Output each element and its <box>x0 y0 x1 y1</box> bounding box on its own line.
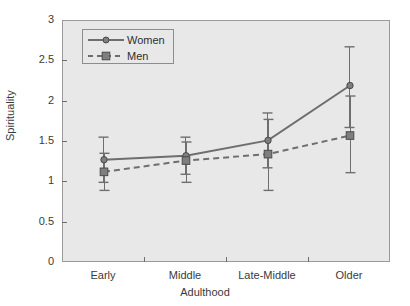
y-tick-mark <box>62 60 67 61</box>
square-marker <box>100 168 108 176</box>
y-tick-label: 0 <box>0 256 54 267</box>
chart-legend: WomenMen <box>82 29 174 64</box>
x-tick-mark <box>226 257 227 262</box>
square-marker <box>264 150 272 158</box>
y-axis-title: Spirituality <box>4 90 16 141</box>
y-tick-mark <box>62 222 67 223</box>
x-tick-mark <box>144 257 145 262</box>
series-men <box>100 132 354 176</box>
circle-marker <box>265 137 271 143</box>
legend-label: Women <box>127 33 165 47</box>
circle-marker <box>347 82 353 88</box>
chart-figure: 00.511.522.53 EarlyMiddleLate-MiddleOlde… <box>0 0 410 306</box>
x-tick-mark <box>308 257 309 262</box>
legend-item-women: Women <box>83 32 175 48</box>
x-tick-label: Older <box>299 270 399 281</box>
series-women <box>101 82 353 163</box>
y-tick-label: 2.5 <box>0 54 54 65</box>
error-bars-women <box>99 47 355 183</box>
y-tick-mark <box>62 181 67 182</box>
y-tick-label: 0.5 <box>0 216 54 227</box>
circle-marker <box>101 157 107 163</box>
legend-item-men: Men <box>83 48 175 64</box>
y-tick-label: 1 <box>0 175 54 186</box>
square-marker <box>182 157 190 165</box>
square-marker <box>346 132 354 140</box>
square-marker-icon <box>87 48 125 68</box>
x-axis-title: Adulthood <box>0 286 410 298</box>
legend-label: Men <box>127 49 148 63</box>
y-tick-label: 3 <box>0 14 54 25</box>
y-tick-mark <box>62 101 67 102</box>
y-tick-mark <box>62 141 67 142</box>
